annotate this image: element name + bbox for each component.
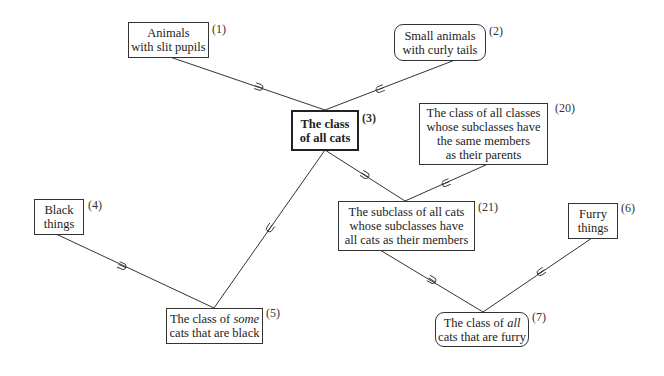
node-class-of-all-cats: The class of all cats — [291, 110, 359, 151]
node-text-emphasis: all — [507, 316, 520, 330]
node-text-part: The class of — [170, 312, 234, 326]
node-number: (7) — [532, 310, 546, 325]
node-text: The class — [301, 117, 350, 131]
node-text-part: The class of — [444, 316, 508, 330]
node-text: cats that are furry — [438, 330, 526, 344]
node-number: (1) — [212, 22, 226, 37]
node-text: The class of all — [444, 316, 521, 330]
node-class-some-black-cats: The class of some cats that are black — [166, 308, 263, 344]
edge-1-3 — [170, 57, 325, 110]
node-text: Small animals — [404, 29, 475, 43]
node-text: of all cats — [300, 131, 351, 145]
node-number: (2) — [489, 24, 503, 39]
node-text: Animals — [147, 26, 189, 40]
node-animals-slit-pupils: Animals with slit pupils — [128, 22, 209, 58]
subset-marker-icon — [254, 83, 264, 91]
node-text: things — [44, 217, 75, 231]
node-furry-things: Furry things — [568, 203, 618, 239]
node-text: Furry — [579, 207, 607, 221]
node-number: (6) — [621, 201, 635, 216]
node-class-of-all-classes: The class of all classes whose subclasse… — [419, 103, 548, 165]
node-text: The subclass of all cats — [349, 205, 465, 219]
node-class-all-furry-cats: The class of all cats that are furry — [435, 312, 529, 347]
node-text: Black — [44, 203, 73, 217]
subset-marker-icon — [441, 179, 451, 188]
node-subclass-of-all-cats: The subclass of all cats whose subclasse… — [338, 201, 475, 251]
node-number: (21) — [478, 200, 498, 215]
subset-marker-icon — [375, 85, 385, 93]
node-text: as their parents — [446, 148, 522, 162]
node-number: (3) — [362, 111, 376, 126]
node-number: (20) — [555, 101, 575, 116]
edge-6-7 — [483, 238, 592, 312]
node-text: with slit pupils — [131, 40, 205, 54]
node-number: (4) — [88, 198, 102, 213]
node-text: whose subclasses have — [427, 120, 541, 134]
node-text: The class of all classes — [427, 106, 541, 120]
node-text: things — [578, 221, 609, 235]
node-text: the same members — [437, 134, 530, 148]
edge-4-5 — [56, 234, 214, 308]
edges-layer — [0, 0, 664, 376]
node-text: all cats as their members — [345, 233, 469, 247]
node-black-things: Black things — [34, 199, 84, 235]
edge-21-7 — [380, 250, 483, 312]
node-number: (5) — [266, 306, 280, 321]
node-text: The class of some — [170, 312, 259, 326]
node-text: whose subclasses have — [350, 219, 464, 233]
subset-marker-icon — [265, 223, 275, 233]
node-text: with curly tails — [403, 43, 478, 57]
node-text-emphasis: some — [233, 312, 259, 326]
node-text: cats that are black — [170, 326, 260, 340]
node-small-animals-curly-tails: Small animals with curly tails — [394, 24, 486, 61]
